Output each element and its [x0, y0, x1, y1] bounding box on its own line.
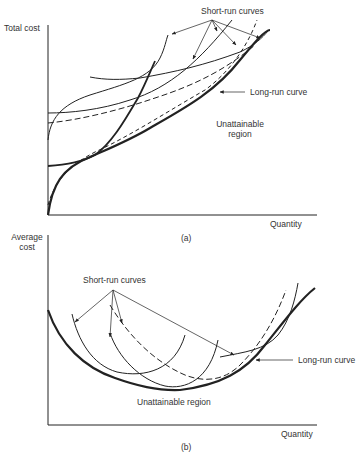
panel-b-y-axis-label-2: cost [8, 242, 46, 252]
panel-b-arrow-4 [113, 290, 234, 355]
panel-a-x-axis-label: Quantity [270, 219, 302, 229]
panel-a-unattainable-label-1: Unattainable [210, 119, 270, 129]
figure-canvas [0, 0, 364, 455]
panel-a-short-run-s-curve [48, 35, 168, 140]
panel-a-short-run-label: Short-run curves [201, 6, 264, 16]
panel-b-arrow-1 [75, 290, 113, 322]
panel-b-arrow-3 [113, 290, 122, 323]
panel-b-short-run-label: Short-run curves [83, 275, 146, 285]
panel-b-y-axis-label-1: Average [8, 232, 46, 242]
panel-b-unattainable-label: Unattainable region [137, 397, 211, 407]
panel-b-long-run-curve [48, 288, 315, 390]
panel-b-x-axis-label: Quantity [281, 429, 313, 439]
panel-a-short-run-dashed-lower [48, 20, 257, 205]
panel-a-caption: (a) [181, 233, 191, 243]
panel-a-short-run-upper [48, 20, 232, 113]
panel-a-long-run-label: Long-run curve [250, 87, 307, 97]
panel-a-chart [48, 20, 317, 215]
panel-a-arrow-4 [212, 20, 236, 45]
panel-a-y-axis-label: Total cost [4, 23, 40, 33]
panel-a-unattainable-label-2: region [210, 129, 270, 139]
panel-b-long-run-label: Long-run curve [298, 355, 355, 365]
panel-a-short-run-top [90, 31, 268, 79]
panel-b-caption: (b) [181, 442, 191, 452]
panel-b-short-run-3-dashed [110, 290, 286, 379]
panel-b-arrow-2 [110, 290, 113, 337]
